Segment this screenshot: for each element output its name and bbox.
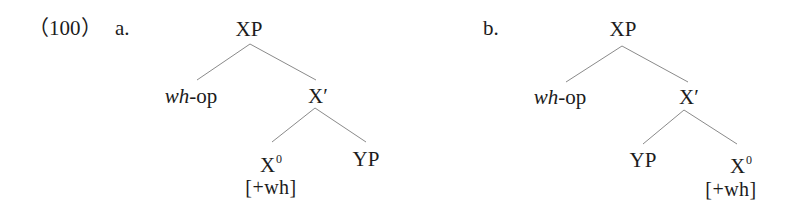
x0-base: X xyxy=(730,154,745,178)
tree-a-node-wh-op: wh-op xyxy=(165,85,218,107)
syntax-tree-figure: （100） a. XP wh-op X′ X0 YP [+wh] b. XP w… xyxy=(0,0,792,216)
tree-b-node-xbar: X′ xyxy=(679,86,699,108)
tree-a-label: a. xyxy=(115,17,130,39)
tree-b-node-yp: YP xyxy=(630,149,657,171)
wh-italic: wh xyxy=(165,84,190,108)
tree-a-node-xbar: X′ xyxy=(308,85,328,107)
edge-b-xbar-to-yp xyxy=(643,110,684,144)
edge-a-xp-to-xbar xyxy=(250,44,316,80)
edge-b-xp-to-xbar xyxy=(622,46,688,82)
op-text: -op xyxy=(189,84,217,108)
tree-b-label: b. xyxy=(483,17,499,39)
wh-italic: wh xyxy=(534,85,559,109)
tree-a-node-x0: X0 xyxy=(260,148,282,176)
edge-a-xp-to-whop xyxy=(197,44,250,80)
op-text: -op xyxy=(558,85,586,109)
tree-b-node-xp: XP xyxy=(610,18,637,40)
edge-b-xp-to-whop xyxy=(566,46,622,82)
x0-superscript: 0 xyxy=(276,152,282,166)
tree-a-feature-wh: [+wh] xyxy=(245,176,297,198)
tree-a-node-yp: YP xyxy=(353,148,380,170)
edge-b-xbar-to-x0 xyxy=(684,110,737,144)
tree-b-feature-wh: [+wh] xyxy=(705,178,757,200)
x0-base: X xyxy=(260,153,275,177)
edge-a-xbar-to-yp xyxy=(315,108,366,142)
tree-b-node-wh-op: wh-op xyxy=(534,86,587,108)
x0-superscript: 0 xyxy=(746,153,752,167)
tree-a-node-xp: XP xyxy=(236,18,263,40)
example-number: （100） xyxy=(28,17,102,39)
tree-b-node-x0: X0 xyxy=(730,149,752,177)
edge-a-xbar-to-x0 xyxy=(272,108,315,142)
